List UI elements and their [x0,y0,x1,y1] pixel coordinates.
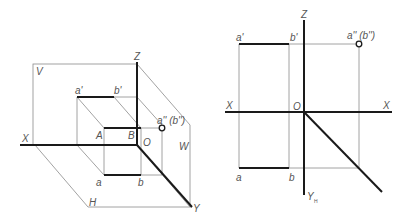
v-plane [33,64,137,145]
diagonal-45-line [304,112,382,192]
proj-line [77,97,104,128]
label-a: a [236,172,242,183]
axonometric-view: Z X Y O V H W a' b' A B a b a'' (b'') [20,51,201,214]
label-b-prime: b' [114,85,123,96]
projection-diagram: Z X Y O V H W a' b' A B a b a'' (b'') Z … [0,0,403,224]
label-o: O [143,137,151,148]
label-b: b [138,177,144,188]
y-axis [137,145,192,207]
label-b-prime: b' [290,32,299,43]
label-x: X [21,133,29,144]
label-a: a [96,177,102,188]
label-a-dprime: a'' (b'') [347,30,375,41]
label-A: A [95,130,103,141]
label-a-prime: a' [236,32,245,43]
label-B: B [128,130,135,141]
label-z: Z [300,9,308,20]
label-b: b [289,172,295,183]
label-a-prime: a' [75,85,84,96]
label-x-left: X [225,100,233,111]
point-a-dprime-icon [356,41,362,47]
label-w-plane: W [179,141,190,152]
three-view-projection: Z X X O Y H a' b' a b a'' (b'') [225,9,392,204]
label-v-plane: V [36,66,44,77]
label-o: O [293,101,301,112]
proj-line [77,145,104,175]
label-h-plane: H [89,197,97,208]
point-a-dprime-icon [159,125,165,131]
w-plane [137,64,190,207]
label-y: Y [193,203,201,214]
label-a-dprime: a'' (b'') [157,115,185,126]
label-x-right: X [382,100,390,111]
label-y-h-sub: H [314,198,318,204]
label-z: Z [133,51,141,62]
